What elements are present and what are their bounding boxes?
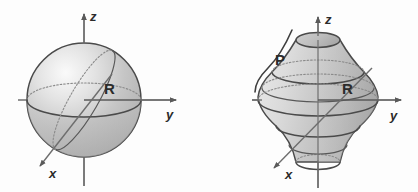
figure-container: z y x R (0, 0, 418, 192)
diagram-canvas: z y x R (0, 0, 418, 192)
revolution-panel: z y x R P (252, 12, 401, 188)
sphere-radius-label: R (104, 80, 115, 97)
revolution-x-axis-label: x (284, 167, 293, 182)
revolution-body-shadow (318, 40, 378, 162)
revolution-radius-label: R (342, 80, 353, 97)
revolution-z-axis-label: z (324, 12, 332, 27)
revolution-profile-label: P (275, 51, 285, 68)
sphere-y-axis-label: y (165, 107, 174, 122)
sphere-x-axis-label: x (48, 166, 57, 181)
sphere-panel: z y x R (18, 9, 176, 186)
sphere-z-axis-label: z (89, 9, 97, 24)
revolution-y-axis-label: y (389, 108, 398, 123)
